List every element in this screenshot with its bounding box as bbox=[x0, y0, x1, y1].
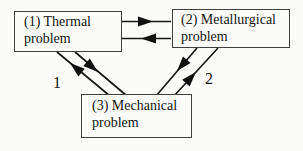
arrow-metallurgical-to-mechanical bbox=[156, 48, 197, 96]
edge-label-2: 2 bbox=[201, 70, 217, 88]
edge-label-1: 1 bbox=[49, 74, 65, 92]
arrowhead-up-left-icon bbox=[70, 63, 85, 76]
diagram-canvas: (1) Thermal problem (2) Metallurgical pr… bbox=[0, 0, 303, 151]
arrow-metallurgical-to-thermal bbox=[122, 34, 171, 44]
arrowhead-left-icon bbox=[141, 34, 156, 44]
node-thermal-problem: (1) Thermal problem bbox=[14, 11, 122, 52]
node-metallurgical-problem: (2) Metallurgical problem bbox=[172, 9, 290, 48]
arrowhead-right-icon bbox=[138, 17, 153, 27]
node-mechanical-problem: (3) Mechanical problem bbox=[81, 94, 192, 138]
arrow-thermal-to-metallurgical bbox=[122, 17, 171, 27]
